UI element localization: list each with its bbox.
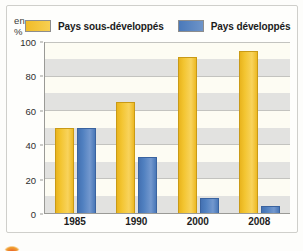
decorative-corner-mark — [4, 246, 20, 251]
y-tick-label: 100 — [20, 37, 36, 48]
legend-item-pays-sous-developpes: Pays sous-développés — [25, 20, 164, 32]
y-tick-mark — [40, 110, 43, 111]
bar-group — [168, 42, 229, 213]
legend-item-pays-developpes: Pays développés — [178, 20, 291, 32]
legend-label-pays-developpes: Pays développés — [211, 21, 291, 32]
y-tick-label: 0 — [31, 209, 36, 220]
x-tick-label: 1985 — [44, 216, 106, 232]
bar-group — [106, 42, 167, 213]
bar — [116, 102, 135, 213]
yellow-swatch-icon — [25, 20, 51, 32]
bar-groups — [45, 42, 290, 213]
bar-group — [229, 42, 290, 213]
y-tick-label: 20 — [25, 174, 36, 185]
chart-legend: en % Pays sous-développés Pays développé… — [14, 16, 296, 36]
y-tick-label: 80 — [25, 71, 36, 82]
y-tick-mark — [40, 214, 43, 215]
chart-figure: en % Pays sous-développés Pays développé… — [0, 0, 303, 251]
y-axis: 020406080100 — [0, 42, 40, 214]
bar — [239, 51, 258, 213]
y-axis-unit-label: en % — [14, 15, 25, 37]
bar — [55, 128, 74, 214]
y-tick-mark — [40, 179, 43, 180]
bar — [261, 206, 280, 213]
blue-swatch-icon — [178, 20, 204, 32]
x-axis: 1985199020002008 — [44, 216, 290, 232]
y-tick-label: 60 — [25, 105, 36, 116]
plot-area — [44, 42, 290, 214]
bar — [138, 157, 157, 213]
bar — [178, 57, 197, 213]
x-tick-label: 1990 — [106, 216, 168, 232]
y-tick-mark — [40, 76, 43, 77]
plot-canvas — [44, 42, 290, 214]
y-tick-mark — [40, 145, 43, 146]
x-tick-label: 2008 — [229, 216, 291, 232]
bar-group — [45, 42, 106, 213]
bar — [77, 128, 96, 214]
legend-label-pays-sous-developpes: Pays sous-développés — [58, 21, 164, 32]
x-tick-label: 2000 — [167, 216, 229, 232]
bar — [200, 198, 219, 213]
y-tick-label: 40 — [25, 140, 36, 151]
y-tick-mark — [40, 42, 43, 43]
